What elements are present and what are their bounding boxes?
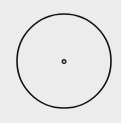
circle-diagram: o (0, 0, 121, 123)
center-label: o (61, 57, 67, 66)
